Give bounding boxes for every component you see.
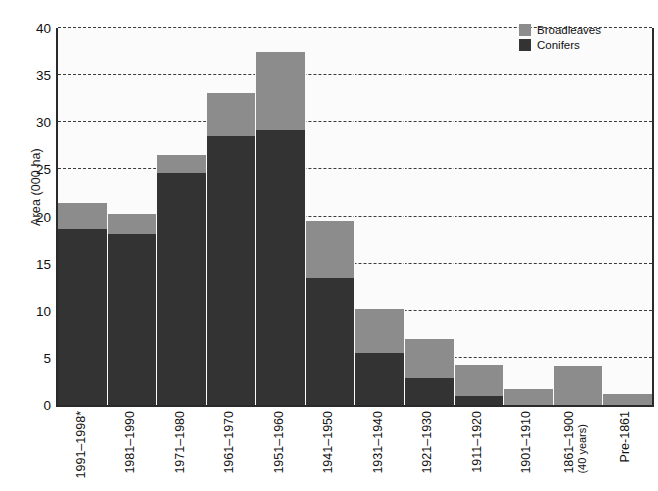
plot-area: 0510152025303540 — [56, 28, 654, 407]
bar-segment-conifers — [157, 173, 206, 405]
bar-column — [58, 28, 108, 405]
x-axis-tick-label-sub: (40 years) — [576, 411, 589, 474]
x-axis-label-cell: 1901–1910 — [502, 409, 552, 491]
x-axis-tick-label-main: 1941–1950 — [321, 411, 335, 474]
x-axis-tick-label: 1991–1998* — [74, 411, 87, 478]
y-axis-tick-label: 20 — [36, 209, 51, 224]
x-axis-label-cell: 1931–1940 — [353, 409, 403, 491]
x-axis-tick-label: 1931–1940 — [371, 411, 384, 474]
x-axis-tick-label: 1941–1950 — [322, 411, 335, 474]
bar-column — [256, 28, 306, 405]
x-axis-label-cell: 1991–1998* — [56, 409, 106, 491]
bar-segment-conifers — [455, 396, 504, 405]
bar-column — [157, 28, 207, 405]
bars-layer — [58, 28, 652, 405]
bar-segment-broadleaves — [455, 365, 504, 395]
bar-column — [405, 28, 455, 405]
legend-label-conifers: Conifers — [537, 39, 580, 51]
x-axis-label-cell: 1911–1920 — [452, 409, 502, 491]
x-axis-tick-label: 1971–1980 — [173, 411, 186, 474]
bar-column — [603, 28, 652, 405]
x-axis-tick-label-main: 1921–1930 — [420, 411, 434, 474]
x-axis-tick-label: 1981–1990 — [124, 411, 137, 474]
y-axis-tick-label: 10 — [36, 303, 51, 318]
y-axis-title: Area (000 ha) — [29, 107, 43, 267]
legend-label-broadleaves: Broadleaves — [537, 24, 601, 36]
x-axis-label-cell: 1921–1930 — [403, 409, 453, 491]
x-axis-tick-label-main: 1981–1990 — [123, 411, 137, 474]
x-axis-tick-label: 1901–1910 — [520, 411, 533, 474]
legend: Broadleaves Conifers — [519, 24, 601, 51]
x-axis-tick-label-main: 1861–1900 — [562, 411, 576, 474]
bar-segment-conifers — [405, 378, 454, 405]
x-axis-label-cell: 1861–1900(40 years) — [551, 409, 601, 491]
bar-segment-broadleaves — [603, 394, 652, 405]
x-axis-tick-label-main: 1911–1920 — [469, 411, 483, 473]
x-axis-tick-label-main: 1961–1970 — [222, 411, 236, 474]
bar-segment-broadleaves — [306, 221, 355, 278]
bar-column — [306, 28, 356, 405]
bar-segment-broadleaves — [405, 339, 454, 378]
x-axis-tick-label: 1951–1960 — [272, 411, 285, 474]
bar-segment-broadleaves — [355, 309, 404, 353]
y-axis-tick-label: 40 — [36, 21, 51, 36]
x-axis-tick-label-main: 1951–1960 — [271, 411, 285, 474]
bar-segment-broadleaves — [504, 389, 553, 405]
bar-segment-conifers — [58, 229, 107, 405]
bar-column — [207, 28, 257, 405]
bar-column — [355, 28, 405, 405]
bar-column — [504, 28, 554, 405]
x-axis-label-cell: 1951–1960 — [254, 409, 304, 491]
bar-column — [554, 28, 604, 405]
x-axis-label-cell: Pre-1861 — [601, 409, 651, 491]
y-axis-tick-label: 30 — [36, 115, 51, 130]
legend-swatch-broadleaves-icon — [519, 24, 531, 36]
x-axis-tick-label: 1861–1900(40 years) — [563, 411, 589, 474]
x-axis-tick-label: 1911–1920 — [470, 411, 483, 473]
x-axis-label-cell: 1961–1970 — [205, 409, 255, 491]
bar-segment-conifers — [355, 353, 404, 405]
y-axis-tick-label: 0 — [43, 398, 51, 413]
legend-item-broadleaves: Broadleaves — [519, 24, 601, 36]
x-axis-tick-label-main: 1901–1910 — [519, 411, 533, 474]
legend-item-conifers: Conifers — [519, 39, 601, 51]
y-axis-tick-label: 25 — [36, 162, 51, 177]
bar-column — [455, 28, 505, 405]
bar-segment-broadleaves — [157, 155, 206, 173]
bar-segment-conifers — [207, 136, 256, 405]
y-axis-tick-label: 15 — [36, 256, 51, 271]
bar-segment-broadleaves — [58, 203, 107, 228]
x-axis-tick-label: Pre-1861 — [619, 411, 632, 462]
bar-segment-broadleaves — [108, 214, 157, 235]
x-axis-label-cell: 1981–1990 — [106, 409, 156, 491]
x-axis-tick-label-main: 1971–1980 — [172, 411, 186, 474]
bar-segment-broadleaves — [554, 366, 603, 405]
bar-segment-conifers — [306, 278, 355, 405]
bar-column — [108, 28, 158, 405]
bar-segment-broadleaves — [207, 93, 256, 136]
x-axis-tick-label: 1921–1930 — [421, 411, 434, 474]
bar-segment-broadleaves — [256, 52, 305, 130]
x-axis-tick-label: 1961–1970 — [223, 411, 236, 474]
legend-swatch-conifers-icon — [519, 39, 531, 51]
x-axis-tick-label-main: 1931–1940 — [370, 411, 384, 474]
stacked-bar-chart: Area (000 ha) 0510152025303540 1991–1998… — [0, 0, 658, 491]
y-axis-tick-label: 35 — [36, 68, 51, 83]
x-axis-tick-label-main: 1991–1998* — [73, 411, 87, 478]
x-axis-tick-label-main: Pre-1861 — [618, 411, 632, 462]
x-axis-label-cell: 1971–1980 — [155, 409, 205, 491]
bar-segment-conifers — [256, 130, 305, 405]
bar-segment-conifers — [108, 234, 157, 405]
x-axis-label-cell: 1941–1950 — [304, 409, 354, 491]
y-axis-tick-label: 5 — [43, 350, 51, 365]
x-axis-labels: 1991–1998*1981–19901971–19801961–1970195… — [56, 409, 650, 491]
